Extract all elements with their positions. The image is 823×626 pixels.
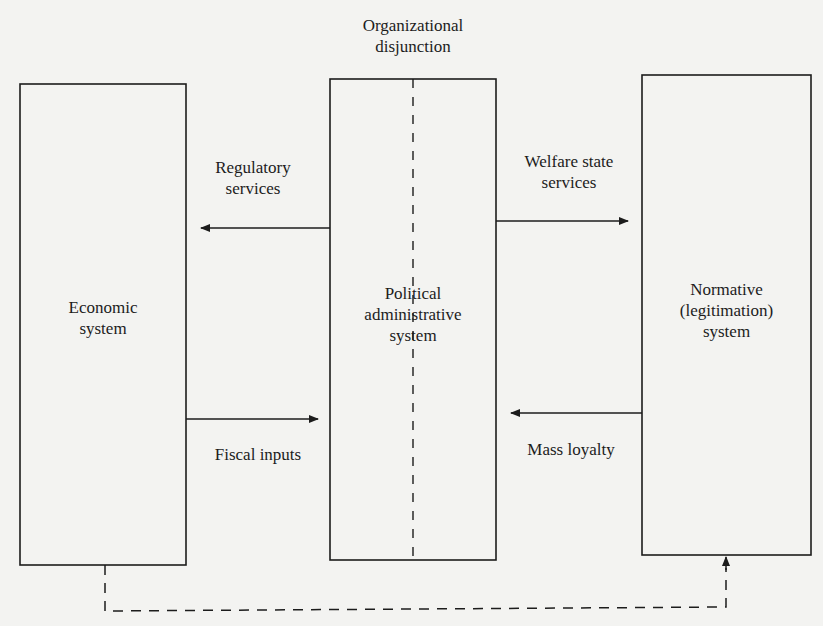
organizational-disjunction-heading: Organizational disjunction	[340, 15, 486, 57]
economic-system-label: Economic system	[20, 297, 186, 339]
normative-line3: system	[642, 321, 811, 342]
political-system-label: Political administrative system	[330, 283, 496, 346]
regulatory-line1: Regulatory	[195, 157, 311, 178]
fiscal-inputs-label: Fiscal inputs	[196, 444, 320, 465]
heading-line2: disjunction	[340, 36, 486, 57]
regulatory-services-label: Regulatory services	[195, 157, 311, 199]
normative-system-label: Normative (legitimation) system	[642, 279, 811, 342]
normative-line1: Normative	[642, 279, 811, 300]
mass-loyalty-label: Mass loyalty	[510, 439, 632, 460]
political-line1: Political	[330, 283, 496, 304]
welfare-line1: Welfare state	[505, 151, 633, 172]
regulatory-line2: services	[195, 178, 311, 199]
economic-line1: Economic	[20, 297, 186, 318]
diagram-canvas: Organizational disjunction Economic syst…	[0, 0, 823, 626]
dashed-feedback-path	[105, 565, 726, 611]
heading-line1: Organizational	[340, 15, 486, 36]
political-line3: system	[330, 325, 496, 346]
normative-line2: (legitimation)	[642, 300, 811, 321]
welfare-services-label: Welfare state services	[505, 151, 633, 193]
economic-line2: system	[20, 318, 186, 339]
fiscal-line1: Fiscal inputs	[196, 444, 320, 465]
welfare-line2: services	[505, 172, 633, 193]
mass-loyalty-line1: Mass loyalty	[510, 439, 632, 460]
political-line2: administrative	[330, 304, 496, 325]
